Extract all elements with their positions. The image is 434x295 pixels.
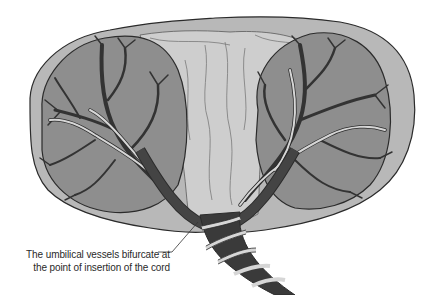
annotation-label: The umbilical vessels bifurcate at the p… — [22, 248, 170, 274]
annotation-line-1: The umbilical vessels bifurcate at — [22, 248, 170, 261]
annotation-line-2: the point of insertion of the cord — [22, 261, 170, 274]
